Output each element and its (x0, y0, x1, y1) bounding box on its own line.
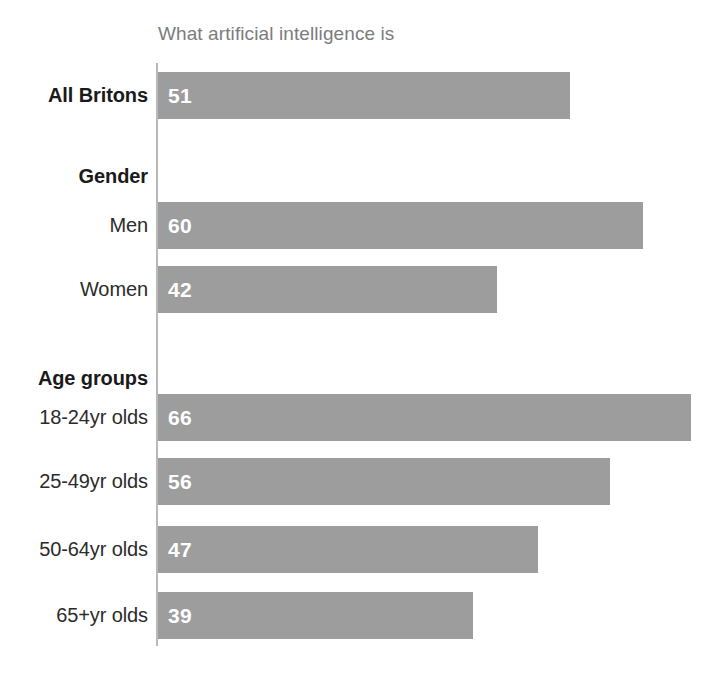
bar-value-label: 39 (168, 592, 192, 639)
bar: 66 (158, 394, 691, 441)
bar-value-label: 51 (168, 72, 192, 119)
chart-row: Men60 (0, 202, 726, 249)
group-heading-row: Age groups (0, 358, 726, 398)
bar-value-label: 47 (168, 526, 192, 573)
bar-value-label: 60 (168, 202, 192, 249)
bar: 47 (158, 526, 538, 573)
bar-value-label: 66 (168, 394, 192, 441)
bar-value-label: 42 (168, 266, 192, 313)
bar: 39 (158, 592, 473, 639)
bar: 60 (158, 202, 643, 249)
bar: 51 (158, 72, 570, 119)
chart-row: 50-64yr olds47 (0, 526, 726, 573)
category-label: Men (109, 202, 148, 249)
category-label: 65+yr olds (56, 592, 148, 639)
bar-value-label: 56 (168, 458, 192, 505)
group-heading-label: Age groups (38, 358, 148, 398)
bar: 56 (158, 458, 610, 505)
chart-row: All Britons51 (0, 72, 726, 119)
chart-row: 18-24yr olds66 (0, 394, 726, 441)
category-label: All Britons (48, 72, 148, 119)
chart-row: 25-49yr olds56 (0, 458, 726, 505)
category-label: 25-49yr olds (39, 458, 148, 505)
chart-row: 65+yr olds39 (0, 592, 726, 639)
group-heading-label: Gender (79, 156, 148, 196)
chart-title: What artificial intelligence is (158, 24, 394, 43)
chart-row: Women42 (0, 266, 726, 313)
category-label: Women (80, 266, 148, 313)
bar: 42 (158, 266, 497, 313)
group-heading-row: Gender (0, 156, 726, 196)
bar-chart: What artificial intelligence is All Brit… (0, 0, 726, 678)
category-label: 18-24yr olds (39, 394, 148, 441)
category-label: 50-64yr olds (39, 526, 148, 573)
